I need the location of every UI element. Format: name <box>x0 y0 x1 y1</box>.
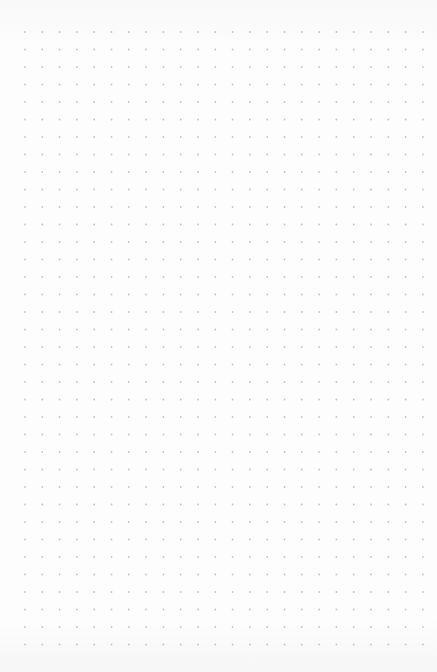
grid-dot <box>180 626 182 628</box>
grid-dot <box>145 591 147 593</box>
grid-dot <box>353 206 355 208</box>
grid-dot <box>163 294 165 296</box>
grid-dot <box>232 644 234 646</box>
grid-dot <box>284 31 286 33</box>
grid-dot <box>336 294 338 296</box>
grid-dot <box>214 206 216 208</box>
grid-dot <box>387 486 389 488</box>
grid-dot <box>370 486 372 488</box>
grid-dot <box>197 486 199 488</box>
grid-dot <box>266 364 268 366</box>
grid-dot <box>318 329 320 331</box>
grid-dot <box>370 31 372 33</box>
grid-dot <box>163 644 165 646</box>
grid-dot <box>422 101 424 103</box>
grid-dot <box>163 609 165 611</box>
grid-dot <box>180 241 182 243</box>
grid-dot <box>41 486 43 488</box>
grid-dot <box>93 31 95 33</box>
grid-dot <box>76 486 78 488</box>
grid-dot <box>387 49 389 51</box>
grid-dot <box>180 276 182 278</box>
grid-dot <box>59 31 61 33</box>
grid-dot <box>353 539 355 541</box>
grid-dot <box>180 154 182 156</box>
grid-dot <box>163 591 165 593</box>
grid-dot <box>387 364 389 366</box>
grid-dot <box>76 539 78 541</box>
grid-dot <box>214 451 216 453</box>
grid-dot <box>266 84 268 86</box>
grid-dot <box>59 451 61 453</box>
grid-dot <box>197 539 199 541</box>
grid-dot <box>370 574 372 576</box>
grid-dot <box>214 154 216 156</box>
grid-dot <box>41 294 43 296</box>
grid-dot <box>163 119 165 121</box>
grid-dot <box>145 504 147 506</box>
grid-dot <box>111 539 113 541</box>
grid-dot <box>93 171 95 173</box>
grid-dot <box>301 136 303 138</box>
grid-dot <box>284 224 286 226</box>
grid-dot <box>301 154 303 156</box>
grid-dot <box>232 381 234 383</box>
grid-dot <box>41 49 43 51</box>
grid-dot <box>59 399 61 401</box>
grid-dot <box>387 119 389 121</box>
grid-dot <box>128 556 130 558</box>
grid-dot <box>163 399 165 401</box>
grid-dot <box>76 399 78 401</box>
grid-dot <box>128 259 130 261</box>
grid-dot <box>76 31 78 33</box>
grid-dot <box>180 171 182 173</box>
grid-dot <box>318 49 320 51</box>
grid-dot <box>24 539 26 541</box>
grid-dot <box>249 469 251 471</box>
grid-dot <box>59 101 61 103</box>
grid-dot <box>197 574 199 576</box>
grid-dot <box>249 416 251 418</box>
grid-dot <box>24 399 26 401</box>
grid-dot <box>336 31 338 33</box>
grid-dot <box>249 609 251 611</box>
grid-dot <box>422 84 424 86</box>
grid-dot <box>266 154 268 156</box>
grid-dot <box>318 241 320 243</box>
grid-dot <box>266 626 268 628</box>
grid-dot <box>163 504 165 506</box>
grid-dot <box>163 259 165 261</box>
grid-dot <box>214 311 216 313</box>
grid-dot <box>41 416 43 418</box>
grid-dot <box>370 311 372 313</box>
grid-dot <box>128 451 130 453</box>
grid-dot <box>41 329 43 331</box>
grid-dot <box>405 469 407 471</box>
grid-dot <box>111 451 113 453</box>
grid-dot <box>197 31 199 33</box>
grid-dot <box>284 329 286 331</box>
grid-dot <box>111 346 113 348</box>
grid-dot <box>41 276 43 278</box>
grid-dot <box>111 416 113 418</box>
grid-dot <box>232 504 234 506</box>
grid-dot <box>214 504 216 506</box>
grid-dot <box>318 294 320 296</box>
grid-dot <box>93 49 95 51</box>
grid-dot <box>59 609 61 611</box>
grid-dot <box>249 84 251 86</box>
grid-dot <box>266 504 268 506</box>
grid-dot <box>41 434 43 436</box>
grid-dot <box>41 399 43 401</box>
grid-dot <box>266 591 268 593</box>
grid-dot <box>180 329 182 331</box>
grid-dot <box>370 609 372 611</box>
grid-dot <box>336 574 338 576</box>
grid-dot <box>180 364 182 366</box>
grid-dot <box>249 259 251 261</box>
grid-dot <box>336 189 338 191</box>
grid-dot <box>214 416 216 418</box>
grid-dot <box>93 136 95 138</box>
grid-dot <box>422 66 424 68</box>
grid-dot <box>76 259 78 261</box>
